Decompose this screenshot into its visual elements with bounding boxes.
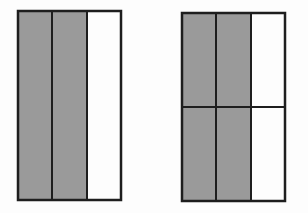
right-fraction-model [182,13,285,201]
left-cell-3-unshaded [87,11,121,200]
left-cell-2-shaded [52,11,87,200]
left-cell-1-shaded [18,11,52,200]
left-fraction-model [18,11,121,200]
fraction-diagram [0,0,308,213]
